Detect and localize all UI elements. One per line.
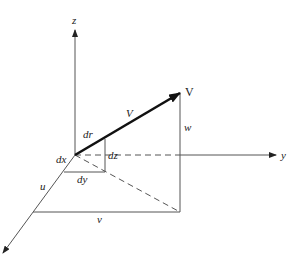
dr-label: dr (83, 128, 94, 140)
z-axis-label: z (71, 14, 77, 26)
v-label: v (97, 213, 102, 225)
velocity-components-diagram: z y V V dr dx dz dy u v w (0, 0, 306, 271)
u-label: u (40, 180, 46, 192)
velocity-vector (75, 93, 180, 155)
projection-dashed (75, 155, 180, 212)
y-axis-label: y (280, 149, 286, 161)
dy-label: dy (77, 173, 88, 185)
dx-label: dx (56, 153, 67, 165)
w-label: w (184, 121, 192, 133)
x-axis (3, 155, 75, 253)
dz-label: dz (108, 149, 119, 161)
vector-tip-label: V (185, 85, 194, 99)
vector-mid-label: V (126, 107, 134, 119)
